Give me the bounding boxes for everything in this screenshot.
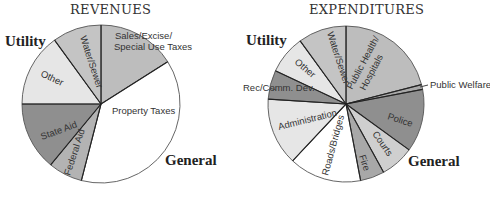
rev-label-sales-2: Special Use Taxes: [114, 41, 192, 52]
pie-charts-figure: REVENUES EXPENDITURES Utility General Ut…: [0, 0, 490, 198]
rev-label-property: Property Taxes: [112, 105, 175, 116]
expenditures-pie: [268, 26, 424, 182]
rev-label-sales-1: Sales/Excise/: [115, 30, 172, 41]
pie-canvas: Sales/Excise/ Special Use Taxes Property…: [0, 0, 490, 198]
exp-label-rec: Rec/Comm. Dev.: [243, 82, 315, 93]
exp-label-welfare: Public Welfare: [430, 79, 490, 90]
